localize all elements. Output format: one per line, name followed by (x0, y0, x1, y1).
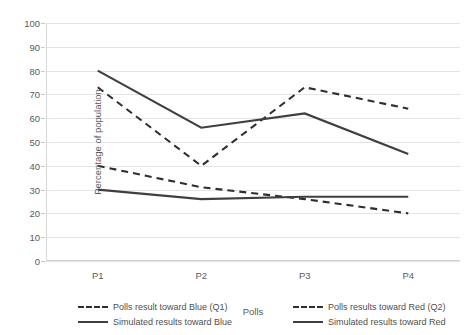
legend-swatch-dashed-icon (293, 306, 323, 308)
y-tick-mark (41, 71, 45, 72)
y-tick-mark (41, 23, 45, 24)
legend-swatch-solid-icon (293, 321, 323, 323)
legend-label: Simulated results toward Blue (113, 317, 232, 327)
series-line-1 (98, 87, 409, 166)
line-chart: 0102030405060708090100 P1P2P3P4 Percenta… (0, 0, 471, 335)
y-tick-label: 50 (4, 137, 40, 148)
y-tick-mark (41, 261, 45, 262)
plot-area: 0102030405060708090100 P1P2P3P4 Percenta… (46, 23, 460, 261)
y-tick-mark (41, 47, 45, 48)
legend-label: Polls results toward Red (Q2) (328, 302, 446, 312)
y-axis-title: Percentage of population (92, 89, 103, 195)
y-tick-label: 60 (4, 113, 40, 124)
x-tick-label: P2 (195, 270, 207, 281)
series-line-3 (98, 71, 409, 154)
legend-swatch-solid-icon (78, 321, 108, 323)
y-tick-label: 0 (4, 256, 40, 267)
chart-legend: Polls result toward Blue (Q1)Polls resul… (0, 300, 471, 334)
series-line-2 (98, 190, 409, 200)
y-tick-mark (41, 190, 45, 191)
y-tick-mark (41, 213, 45, 214)
y-tick-mark (41, 166, 45, 167)
series-line-0 (98, 166, 409, 214)
y-tick-mark (41, 118, 45, 119)
legend-item[interactable]: Polls results toward Red (Q2) (293, 302, 446, 312)
legend-label: Simulated results toward Red (328, 317, 446, 327)
y-tick-label: 30 (4, 184, 40, 195)
x-tick-label: P1 (92, 270, 104, 281)
y-tick-label: 10 (4, 232, 40, 243)
y-tick-label: 90 (4, 41, 40, 52)
x-tick-label: P3 (299, 270, 311, 281)
y-tick-mark (41, 94, 45, 95)
legend-item[interactable]: Polls result toward Blue (Q1) (78, 302, 228, 312)
y-tick-label: 70 (4, 89, 40, 100)
y-tick-mark (41, 237, 45, 238)
y-tick-label: 20 (4, 208, 40, 219)
y-tick-label: 100 (4, 18, 40, 29)
series-lines (46, 23, 460, 261)
legend-label: Polls result toward Blue (Q1) (113, 302, 228, 312)
legend-item[interactable]: Simulated results toward Red (293, 317, 446, 327)
y-tick-label: 40 (4, 160, 40, 171)
x-tick-label: P4 (402, 270, 414, 281)
y-tick-label: 80 (4, 65, 40, 76)
legend-swatch-dashed-icon (78, 306, 108, 308)
gridline (46, 261, 460, 262)
legend-item[interactable]: Simulated results toward Blue (78, 317, 232, 327)
y-tick-mark (41, 142, 45, 143)
